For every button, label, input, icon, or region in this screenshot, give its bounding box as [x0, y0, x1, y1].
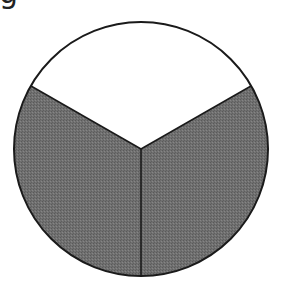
fraction-circle — [0, 0, 287, 289]
